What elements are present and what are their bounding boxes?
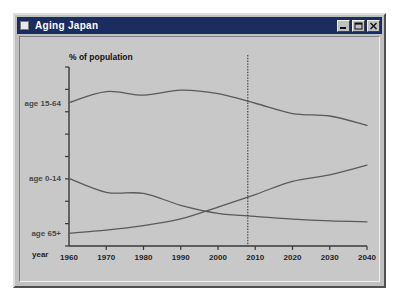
x-axis-tick-label: 1990 [172, 253, 190, 262]
close-button[interactable] [367, 20, 380, 32]
x-axis-tick-labels: 196019701980199020002010202020302040 [60, 253, 376, 262]
series-line-age-65- [69, 165, 367, 233]
application-window: Aging Japan % of population [13, 13, 386, 288]
x-axis-tick-label: 2010 [246, 253, 264, 262]
window-title-bar[interactable]: Aging Japan [17, 17, 382, 34]
chart-canvas: % of population 196019701980199020002010… [20, 37, 380, 282]
minimize-button[interactable] [337, 20, 350, 32]
chart-title: % of population [69, 52, 133, 62]
x-axis-tick-label: 1960 [60, 253, 78, 262]
window-app-icon [20, 21, 29, 30]
series-line-age-15-64 [69, 90, 367, 125]
window-client-area: % of population 196019701980199020002010… [19, 36, 380, 282]
chart-series-lines [69, 90, 367, 233]
chart-axes [65, 67, 367, 250]
aging-japan-line-chart: % of population 196019701980199020002010… [20, 37, 379, 281]
series-label-age-65-: age 65+ [31, 229, 61, 238]
series-line-age-0-14 [69, 178, 367, 221]
chart-series-labels: age 15-64age 0-14age 65+ [25, 99, 62, 239]
series-label-age-15-64: age 15-64 [25, 99, 62, 108]
series-label-age-0-14: age 0-14 [29, 174, 62, 183]
x-axis-tick-label: 2030 [321, 253, 339, 262]
x-axis-tick-label: 2000 [209, 253, 227, 262]
x-axis-tick-label: 1970 [97, 253, 115, 262]
x-axis-label: year [32, 250, 48, 259]
x-axis-tick-label: 2020 [284, 253, 302, 262]
x-axis-tick-label: 2040 [358, 253, 376, 262]
x-axis-tick-label: 1980 [135, 253, 153, 262]
maximize-button[interactable] [352, 20, 365, 32]
window-title: Aging Japan [35, 20, 335, 31]
